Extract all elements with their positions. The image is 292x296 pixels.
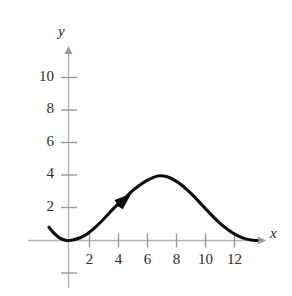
y-tick-label-6: 6: [24, 134, 54, 149]
x-tick-label-12: 12: [223, 252, 246, 267]
x-tick-label-8: 8: [165, 252, 188, 267]
y-axis-label: y: [58, 24, 65, 39]
x-tick-label-2: 2: [78, 252, 101, 267]
y-tick-label-10: 10: [24, 69, 54, 84]
curve-path: [49, 176, 257, 241]
x-tick-label-4: 4: [107, 252, 130, 267]
y-tick-label-8: 8: [24, 101, 54, 116]
y-tick-label-2: 2: [24, 199, 54, 214]
graph-figure: y x 10 8 6 4 2 2 4 6 8 10 12: [0, 0, 292, 296]
x-axis-label: x: [270, 226, 277, 241]
x-tick-label-6: 6: [136, 252, 159, 267]
y-tick-label-4: 4: [24, 166, 54, 181]
x-axis-arrowhead: [258, 237, 266, 245]
x-tick-label-10: 10: [194, 252, 217, 267]
y-axis-arrowhead: [65, 46, 73, 54]
